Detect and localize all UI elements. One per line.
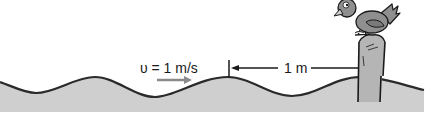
velocity-label: υ = 1 m/s <box>140 60 198 76</box>
post <box>358 35 385 102</box>
distance-label: 1 m <box>284 60 307 76</box>
velocity-arrow <box>157 76 192 84</box>
wave-diagram: υ = 1 m/s 1 m <box>0 0 436 130</box>
bird <box>334 0 400 35</box>
wave-diagram-svg <box>0 0 436 130</box>
